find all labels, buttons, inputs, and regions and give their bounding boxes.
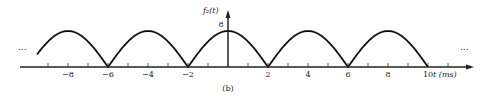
left-ellipsis: ... xyxy=(18,42,27,52)
svg-text:−8: −8 xyxy=(62,70,74,79)
y-axis-label: f₂(t) xyxy=(202,6,219,15)
x-tick-labels: −8−6−4−2246810 xyxy=(62,70,433,79)
svg-text:4: 4 xyxy=(305,70,310,79)
figure-caption: (b) xyxy=(222,84,233,93)
svg-text:10: 10 xyxy=(423,70,433,79)
waveform-chart: −8−6−4−2246810 8 f₂(t) t (ms) ... ... (b… xyxy=(0,0,497,97)
x-axis-label: t (ms) xyxy=(433,70,457,79)
svg-text:8: 8 xyxy=(385,70,390,79)
svg-text:6: 6 xyxy=(345,70,350,79)
svg-text:−2: −2 xyxy=(182,70,194,79)
x-ticks xyxy=(48,63,448,67)
x-axis-arrow-icon xyxy=(466,65,474,70)
svg-text:−6: −6 xyxy=(102,70,114,79)
svg-text:2: 2 xyxy=(265,70,270,79)
right-ellipsis: ... xyxy=(460,42,469,52)
svg-text:−4: −4 xyxy=(142,70,154,79)
rectified-sine-curve xyxy=(37,31,428,67)
y-axis-arrow-icon xyxy=(226,10,231,18)
y-tick-label: 8 xyxy=(218,20,223,29)
